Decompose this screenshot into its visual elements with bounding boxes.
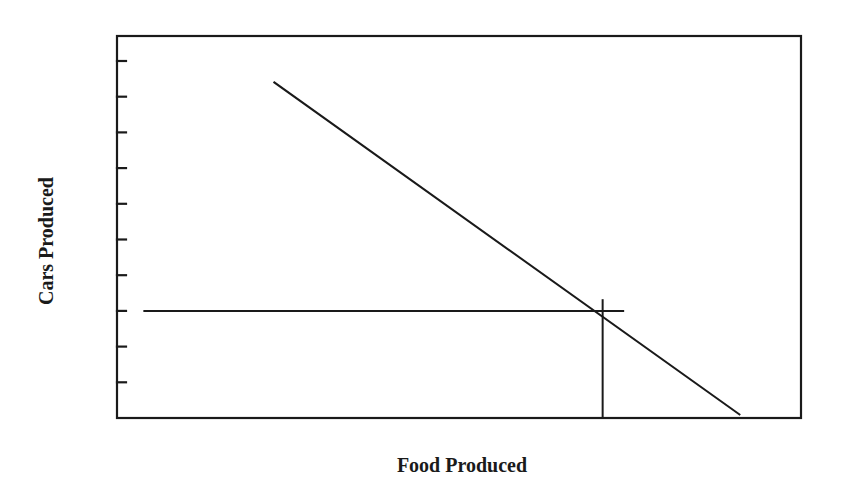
plot-border	[117, 36, 801, 418]
point-guides	[144, 300, 623, 418]
ppf-segment	[274, 82, 739, 414]
chart: Food Produced Cars Produced	[0, 0, 841, 477]
ppf-line	[274, 82, 739, 414]
y-axis-title: Cars Produced	[35, 177, 57, 305]
x-axis-title: Food Produced	[397, 454, 527, 476]
y-axis-ticks	[117, 61, 126, 382]
plot-frame	[117, 36, 801, 418]
